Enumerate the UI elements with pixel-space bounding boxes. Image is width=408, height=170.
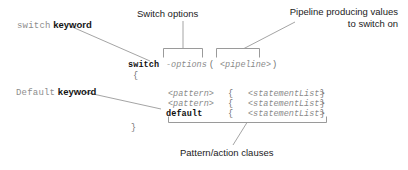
leader-pattern-action xyxy=(233,123,247,146)
code-brace-open: { xyxy=(133,71,138,82)
annotation-pipeline-note: Pipeline producing values to switch on xyxy=(268,6,398,29)
annotation-pipeline-note-line2: to switch on xyxy=(348,18,398,29)
code-clause-pattern: <pattern> xyxy=(168,89,214,100)
code-switch-keyword: switch xyxy=(128,60,159,71)
code-clause-brace-close: } xyxy=(320,89,325,100)
code-switch-options: -options xyxy=(166,60,207,71)
code-clause-body: <statementList> xyxy=(248,99,325,110)
code-clause-body: <statementList> xyxy=(248,109,325,120)
code-clause-brace-open: { xyxy=(228,89,233,100)
annotation-switch-keyword: switch keyword xyxy=(17,19,92,32)
code-pipeline: <pipeline> xyxy=(220,60,271,71)
switch-syntax-diagram: switch keyword Switch options Pipeline p… xyxy=(0,0,408,170)
code-paren-close: ) xyxy=(272,60,277,71)
annotation-switch-keyword-text: keyword xyxy=(51,19,92,30)
brace-switch-options xyxy=(164,49,203,58)
annotation-pattern-action-clauses: Pattern/action clauses xyxy=(180,147,273,158)
code-clause-pattern: <pattern> xyxy=(168,99,214,110)
annotation-default-keyword-code: Default xyxy=(16,88,55,98)
annotation-pipeline-note-line1: Pipeline producing values xyxy=(290,6,398,17)
brace-pipeline xyxy=(217,49,260,58)
annotation-switch-keyword-code: switch xyxy=(17,21,51,31)
code-clause-brace-open: { xyxy=(228,99,233,110)
code-clause-brace-close: } xyxy=(320,99,325,110)
code-brace-close: } xyxy=(131,123,136,134)
annotation-default-keyword-text: keyword xyxy=(55,86,96,97)
code-clause-body: <statementList> xyxy=(248,89,325,100)
annotation-switch-options: Switch options xyxy=(137,8,198,19)
annotation-default-keyword: Default keyword xyxy=(16,86,96,99)
code-clause-default-keyword: default xyxy=(166,109,202,120)
code-clause-brace-open: { xyxy=(228,109,233,120)
code-clause-brace-close: } xyxy=(320,109,325,120)
code-paren-open: ( xyxy=(209,60,214,71)
